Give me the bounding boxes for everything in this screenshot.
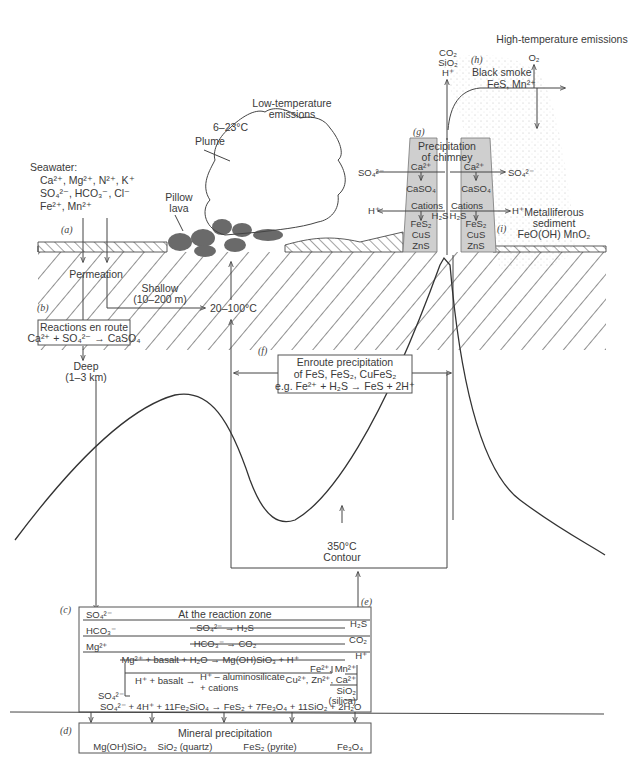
enroute-line3: e.g. Fe²⁺ + H₂S → FeS + 2H⁺ <box>275 380 415 392</box>
chimney-mineral-left-3: ZnS <box>412 240 429 251</box>
rz-row3-reaction: Mg²⁺ + basalt + H₂O → Mg(OH)SiO₃ + H⁺ <box>121 654 298 665</box>
rz-row2-output: CO₂ <box>349 634 367 645</box>
label-f: (f) <box>258 345 268 357</box>
label-b: (b) <box>37 302 49 314</box>
chimney-h2s-left: H₂S <box>432 210 449 221</box>
seawater-line1: Ca²⁺, Mg²⁺, N²⁺, K⁺ <box>40 174 135 186</box>
rz-row2-reaction: HCO₃⁻ → CO₂ <box>194 638 257 649</box>
rz-row2-input: HCO₃⁻ <box>86 625 116 636</box>
rz-row3-output: H⁺ <box>355 650 367 661</box>
rz-cations-out1: Fe²⁺, Mn²⁺ <box>310 663 356 674</box>
enroute-line2: of FeS, FeS₂, CuFeS₂ <box>294 368 397 380</box>
contour-line2: Contour <box>323 551 361 563</box>
rz-cations-out2: Cu²⁺, Zn²⁺, Ca²⁺ <box>286 674 356 685</box>
chimney-h-right: H⁺ <box>512 205 524 216</box>
chimney-ca-left: Ca²⁺ <box>411 161 431 172</box>
pillow-lava <box>168 219 283 257</box>
chimney-caso4-right: CaSO₄ <box>461 183 491 194</box>
reactions-en-route-equation: Ca²⁺ + SO₄²⁻ → CaSO₄ <box>27 332 140 344</box>
label-a: (a) <box>61 224 73 236</box>
mineral-precip-title: Mineral precipitation <box>178 727 272 739</box>
seawater-line3: Fe²⁺, Mn²⁺ <box>40 200 92 212</box>
plume-label: Plume <box>195 135 225 147</box>
reaction-zone-title: At the reaction zone <box>178 608 272 620</box>
rz-final-equation: SO₄²⁻ + 4H⁺ + 11Fe₂SiO₄ → FeS₂ + 7Fe₃O₄ … <box>100 701 361 712</box>
black-smoke-label: Black smoke <box>472 66 532 78</box>
low-temp-title2: emissions <box>269 108 316 120</box>
mineral-item-1: Mg(OH)SiO₃ <box>93 741 147 752</box>
label-g: (g) <box>413 126 425 138</box>
label-h: (h) <box>471 54 483 66</box>
label-i: (i) <box>497 223 507 235</box>
seawater-heading: Seawater: <box>30 161 77 173</box>
temp-range-label: 20–100°C <box>210 302 257 314</box>
low-temp-temp: 6–23°C <box>213 121 249 133</box>
mineral-item-4: Fe₃O₄ <box>337 741 363 752</box>
metalliferous-line3: FeO(OH) MnO₂ <box>518 228 591 240</box>
rz-basalt-products2: + cations <box>200 682 239 693</box>
chimney-h2s-right: H₂S <box>450 210 467 221</box>
rz-so4-label: SO₄²⁻ <box>98 690 124 701</box>
rz-row1-reaction: SO₄²⁻ → H₂S <box>196 622 253 633</box>
chimney-mineral-left-2: CuS <box>412 229 430 240</box>
o2-label: O₂ <box>528 52 539 63</box>
deep-line2: (1–3 km) <box>65 371 106 383</box>
rz-row1-input: SO₄²⁻ <box>86 609 112 620</box>
chimney-so4-right: SO₄²⁻ <box>508 167 534 178</box>
chimney-caso4-left: CaSO₄ <box>406 183 436 194</box>
rz-row1-output: H₂S <box>350 618 367 629</box>
hydrothermal-diagram: (a) (b) (c) (d) (e) (f) (g) (h) (i) Seaw… <box>0 0 639 780</box>
chimney-mineral-right-2: CuS <box>467 229 485 240</box>
rz-basalt-reaction: H⁺ + basalt → <box>135 675 195 686</box>
high-temp-output-h: H⁺ <box>442 67 454 78</box>
chimney-h-left: H⁺ <box>368 205 380 216</box>
black-smoke-species: FeS, Mn²⁺ <box>487 78 536 90</box>
label-e: (e) <box>361 596 373 608</box>
chimney-mineral-right-3: ZnS <box>467 240 484 251</box>
mineral-item-3: FeS₂ (pyrite) <box>243 741 296 752</box>
label-c: (c) <box>60 604 72 616</box>
enroute-line1: Enroute precipitation <box>297 356 393 368</box>
chimney-ca-right: Ca²⁺ <box>464 161 484 172</box>
mineral-item-2: SiO₂ (quartz) <box>158 741 213 752</box>
chimney-mineral-left-1: FeS₂ <box>410 218 431 229</box>
seawater-line2: SO₄²⁻, HCO₃⁻, Cl⁻ <box>40 187 130 199</box>
pillow-lava-line2: lava <box>169 202 188 214</box>
high-temp-title: High-temperature emissions <box>496 33 627 45</box>
shallow-line2: (10–200 m) <box>133 293 187 305</box>
rz-row3-input: Mg²⁺ <box>86 641 107 652</box>
rz-basalt-products1: H⁺ – aluminosilicate <box>200 671 285 682</box>
permeation-label: Permeation <box>69 268 123 280</box>
chimney-so4-left: SO₄²⁻ <box>358 167 384 178</box>
chimney-mineral-right-1: FeS₂ <box>465 218 486 229</box>
label-d: (d) <box>60 725 72 737</box>
